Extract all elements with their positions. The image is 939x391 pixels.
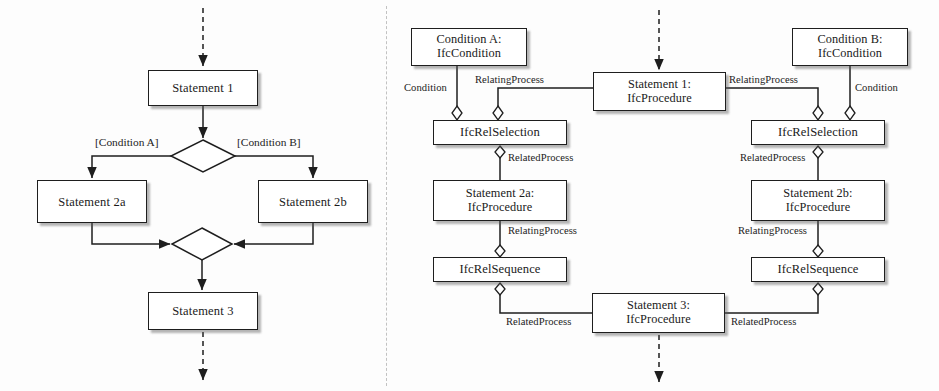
aggregation-diamond-seqA-out [495,283,505,295]
aggregation-diamond-proc2a-out [495,245,505,257]
aggregation-diamond-selA-out [495,146,505,158]
edge-label-relatingprocess-a-seq: RelatingProcess [508,225,577,236]
flow-edge-branch-stmt2b [235,156,313,178]
ifc-edge-proc1-selA [498,88,593,112]
figure-canvas: Statement 1 Statement 2a Statement 2b St… [0,0,939,391]
aggregation-diamond-relB [813,106,823,120]
ifc-node-relsequence-left[interactable]: IfcRelSequence [433,257,567,282]
ifc-node-label: Condition B: IfcCondition [815,33,884,61]
ifc-node-condition-b[interactable]: Condition B: IfcCondition [792,28,908,66]
guard-label-condition-b: [Condition B] [237,136,301,148]
ifc-node-relsequence-right[interactable]: IfcRelSequence [751,257,885,282]
guard-label-condition-a: [Condition A] [95,136,159,148]
ifc-edge-seqB-proc3 [725,289,818,313]
ifc-node-label: Condition A: IfcCondition [434,33,503,61]
flow-edge-branch-stmt2a [92,156,171,178]
ifc-node-label: Statement 2b: IfcProcedure [781,187,854,215]
flow-node-statement-2b[interactable]: Statement 2b [258,180,368,223]
ifc-node-statement-2a[interactable]: Statement 2a: IfcProcedure [433,180,567,221]
decision-diamond-branch [171,140,235,172]
flow-edge-stmt2a-merge [92,223,170,244]
ifc-node-condition-a[interactable]: Condition A: IfcCondition [411,28,527,66]
ifc-node-label: Statement 1: IfcProcedure [625,78,694,106]
flow-node-label: Statement 3 [170,304,236,318]
ifc-node-relselection-right[interactable]: IfcRelSelection [751,120,885,145]
edge-label-relatingprocess-b-seq: RelatingProcess [738,225,807,236]
flow-node-label: Statement 2a [56,195,127,209]
decision-diamond-merge [172,228,232,260]
edge-label-relatedprocess-b-sel: RelatedProcess [740,152,805,163]
ifc-node-relselection-left[interactable]: IfcRelSelection [433,120,567,145]
flow-node-label: Statement 2b [277,195,349,209]
ifc-node-statement-2b[interactable]: Statement 2b: IfcProcedure [751,180,885,221]
edge-label-relatedprocess-a-sel: RelatedProcess [508,152,573,163]
ifc-node-statement-3[interactable]: Statement 3: IfcProcedure [592,293,725,333]
ifc-node-label: Statement 3: IfcProcedure [624,299,693,327]
panel-divider [386,6,387,386]
edge-label-relatedprocess-b-stmt3: RelatedProcess [731,316,796,327]
ifc-node-statement-1[interactable]: Statement 1: IfcProcedure [593,72,726,111]
aggregation-diamond-relA [493,106,503,120]
flow-node-statement-1[interactable]: Statement 1 [148,70,258,106]
aggregation-diamond-seqB-out [813,283,823,295]
aggregation-diamond-selB-out [813,146,823,158]
edge-label-relatingprocess-a: RelatingProcess [475,74,544,85]
aggregation-diamond-proc2b-out [813,245,823,257]
ifc-edge-proc1-selB [726,88,818,112]
ifc-node-label: IfcRelSequence [775,262,860,276]
ifc-node-label: IfcRelSelection [776,125,860,139]
edge-label-condition-b: Condition [855,82,898,93]
edge-label-condition-a: Condition [404,82,447,93]
ifc-edge-seqA-proc3 [500,289,592,313]
flow-node-statement-3[interactable]: Statement 3 [148,292,258,330]
flow-node-statement-2a[interactable]: Statement 2a [37,180,147,223]
ifc-node-label: Statement 2a: IfcProcedure [464,187,537,215]
edge-label-relatingprocess-b: RelatingProcess [729,74,798,85]
flow-node-label: Statement 1 [170,81,236,95]
ifc-node-label: IfcRelSelection [458,125,542,139]
aggregation-diamond-condA [452,106,462,120]
aggregation-diamond-condB [845,106,855,120]
flow-edge-stmt2b-merge [234,223,313,244]
ifc-node-label: IfcRelSequence [457,262,542,276]
edge-label-relatedprocess-a-stmt3: RelatedProcess [506,316,571,327]
